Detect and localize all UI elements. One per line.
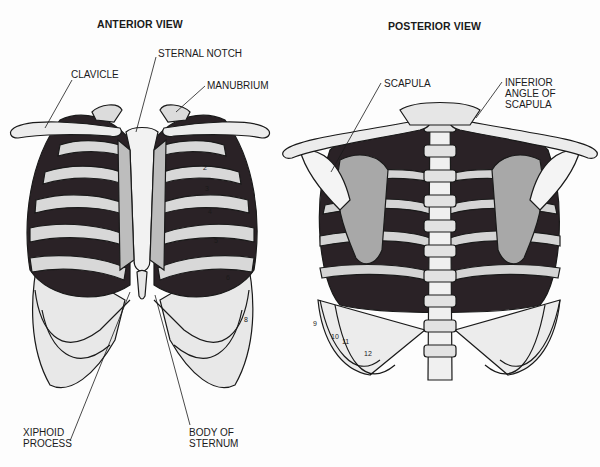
rib-number: 5 <box>214 237 218 244</box>
anterior-rib-cage <box>11 105 270 388</box>
rib-number: 2 <box>203 164 207 171</box>
rib-number: 3 <box>205 185 209 192</box>
rib-number: 6 <box>226 274 230 281</box>
rib-number: 8 <box>244 316 248 323</box>
rib-number: 9 <box>313 320 317 327</box>
posterior-rib-cage <box>283 103 597 381</box>
rib-number: 12 <box>364 350 372 357</box>
leader-line-manubrium <box>176 86 205 112</box>
rib-number: 10 <box>331 333 339 340</box>
rib-number: 4 <box>208 208 212 215</box>
rib-number: 11 <box>342 338 349 345</box>
leader-line-inferior-angle <box>476 82 502 118</box>
leader-line-sternal-notch <box>136 57 156 132</box>
xiphoid-process <box>137 271 147 300</box>
thorax-illustration: 2 3 4 5 6 8 <box>0 0 600 467</box>
